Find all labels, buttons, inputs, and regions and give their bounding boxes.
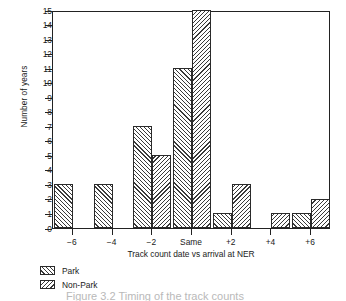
legend-item-label: Park xyxy=(62,266,79,276)
x-axis-tick-label: +6 xyxy=(287,237,333,247)
x-axis-tick-mark xyxy=(270,229,271,235)
figure-caption: Figure 3.2 Timing of the track counts xyxy=(66,290,346,301)
y-axis-tick-mark xyxy=(45,98,52,99)
x-axis-tick-mark xyxy=(72,229,73,235)
y-axis-tick: 8 xyxy=(0,108,52,117)
y-axis-tick-mark xyxy=(45,156,52,157)
bar-park xyxy=(173,68,192,228)
y-axis-ticks: 0123456789101112131415 xyxy=(0,0,52,301)
y-axis-tick-mark xyxy=(45,11,52,12)
y-axis-tick: 12 xyxy=(0,50,52,59)
y-axis-tick: 5 xyxy=(0,152,52,161)
legend-item-label: Non-Park xyxy=(62,280,97,290)
y-axis-tick-mark xyxy=(45,83,52,84)
y-axis-tick: 9 xyxy=(0,94,52,103)
x-axis-tick-mark xyxy=(151,229,152,235)
legend-item: Park xyxy=(40,264,97,277)
y-axis-tick-mark xyxy=(45,25,52,26)
y-axis-tick: 2 xyxy=(0,195,52,204)
y-axis-tick-mark xyxy=(45,185,52,186)
histogram-figure: Number of years 0123456789101112131415 −… xyxy=(0,0,346,301)
bar-non-park xyxy=(311,199,330,228)
y-axis-tick: 6 xyxy=(0,137,52,146)
backward-hatch-icon xyxy=(40,280,55,289)
forward-hatch-icon xyxy=(40,266,55,275)
bar-non-park xyxy=(152,155,171,228)
legend: ParkNon-Park xyxy=(40,264,97,292)
y-axis-tick: 15 xyxy=(0,7,52,16)
y-axis-tick-mark xyxy=(45,214,52,215)
bar-park xyxy=(292,213,311,228)
y-axis-tick-mark xyxy=(45,40,52,41)
y-axis-tick-mark xyxy=(45,229,52,230)
x-axis-title: Track count date vs arrival at NER xyxy=(52,249,330,259)
y-axis-tick-mark xyxy=(45,170,52,171)
bar-park xyxy=(133,126,152,228)
y-axis-tick: 4 xyxy=(0,166,52,175)
y-axis-tick: 3 xyxy=(0,181,52,190)
y-axis-tick: 0 xyxy=(0,225,52,234)
plot-area xyxy=(52,11,330,229)
bar-group-container xyxy=(53,12,329,228)
bar-park xyxy=(94,184,113,228)
y-axis-tick-mark xyxy=(45,141,52,142)
y-axis-tick-mark xyxy=(45,112,52,113)
bar-non-park xyxy=(192,10,211,228)
y-axis-tick: 11 xyxy=(0,65,52,74)
bar-non-park xyxy=(271,213,290,228)
y-axis-tick-mark xyxy=(45,199,52,200)
y-axis-tick-mark xyxy=(45,54,52,55)
x-axis-tick-mark xyxy=(310,229,311,235)
y-axis-tick-mark xyxy=(45,127,52,128)
bar-park xyxy=(54,184,73,228)
y-axis-tick: 13 xyxy=(0,36,52,45)
y-axis-tick: 14 xyxy=(0,21,52,30)
x-axis-tick-mark xyxy=(112,229,113,235)
y-axis-tick: 1 xyxy=(0,210,52,219)
bar-park xyxy=(213,213,232,228)
y-axis-tick-mark xyxy=(45,69,52,70)
x-axis-tick-mark xyxy=(231,229,232,235)
y-axis-tick: 10 xyxy=(0,79,52,88)
x-axis-tick-mark xyxy=(191,229,192,235)
y-axis-tick: 7 xyxy=(0,123,52,132)
bar-non-park xyxy=(232,184,251,228)
